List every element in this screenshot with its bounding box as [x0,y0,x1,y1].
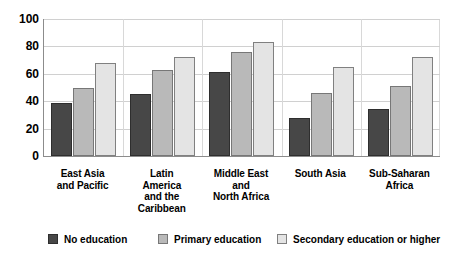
bar [368,109,389,156]
bar [412,57,433,156]
x-axis-label-line: South Asia [281,168,360,180]
legend-label: Primary education [174,234,261,245]
group-separator [282,19,283,156]
x-axis-label-line: Middle East [201,168,280,180]
y-tick-label-20: 20 [3,123,39,135]
y-tick-label-60: 60 [3,68,39,80]
bar-group [123,19,202,156]
x-axis-label-line: America [122,180,201,192]
bar [390,86,411,156]
bar [311,93,332,156]
bar [231,52,252,156]
x-axis-label-line: and Pacific [43,180,122,192]
x-axis-label: Middle EastandNorth Africa [201,168,280,203]
legend-label: Secondary education or higher [293,234,440,245]
y-axis: 020406080100 [0,0,39,259]
x-axis-label-line: Africa [360,180,439,192]
bar-chart: 020406080100 East Asiaand PacificLatinAm… [0,0,453,259]
y-tick-label-80: 80 [3,40,39,52]
legend-swatch-icon [48,234,58,244]
x-axis-label: Sub-SaharanAfrica [360,168,439,191]
group-separator [123,19,124,156]
bar [130,94,151,156]
legend-swatch-icon [277,234,287,244]
x-axis-label: LatinAmericaand theCaribbean [122,168,201,214]
x-axis-label-line: and the [122,191,201,203]
bar-group [44,19,123,156]
legend-item[interactable]: No education [48,232,127,246]
bar [289,118,310,156]
x-axis-label-line: Sub-Saharan [360,168,439,180]
chart-legend: No educationPrimary educationSecondary e… [0,232,453,252]
x-axis-label: South Asia [281,168,360,180]
bar [209,72,230,156]
bar-group [361,19,440,156]
legend-item[interactable]: Primary education [158,232,261,246]
x-axis-label-line: Caribbean [122,203,201,215]
bar [253,42,274,156]
y-tick-label-0: 0 [3,150,39,162]
bar-group [202,19,281,156]
bar [152,70,173,156]
legend-swatch-icon [158,234,168,244]
plot-area [43,19,440,157]
group-separator [202,19,203,156]
legend-item[interactable]: Secondary education or higher [277,232,440,246]
bar [51,103,72,156]
bar [95,63,116,156]
bar [333,67,354,156]
y-tick-label-40: 40 [3,95,39,107]
x-axis-category-labels: East Asiaand PacificLatinAmericaand theC… [43,168,440,224]
bar [174,57,195,156]
y-tick-label-100: 100 [3,13,39,25]
bar [73,88,94,157]
group-separator [361,19,362,156]
x-axis-label-line: and [201,180,280,192]
x-axis-label: East Asiaand Pacific [43,168,122,191]
x-axis-label-line: East Asia [43,168,122,180]
legend-label: No education [64,234,127,245]
bar-group [282,19,361,156]
x-axis-label-line: Latin [122,168,201,180]
x-axis-label-line: North Africa [201,191,280,203]
